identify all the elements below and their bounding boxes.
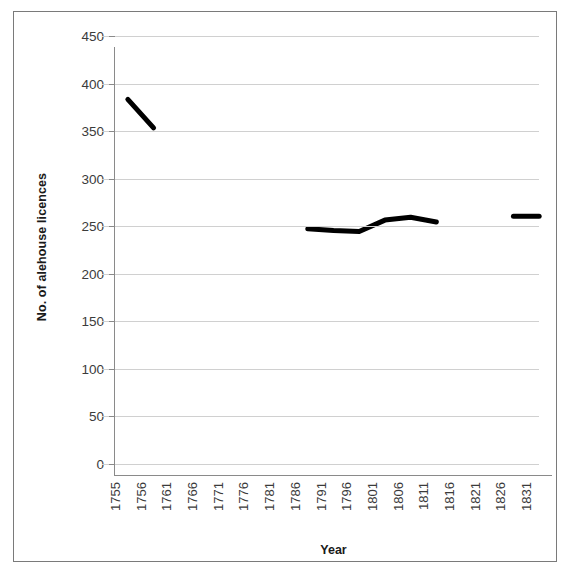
y-axis-tick-label: 400 — [81, 76, 104, 91]
gridline — [102, 321, 539, 322]
x-axis-tick-label: 1776 — [236, 482, 251, 511]
y-axis-tick — [109, 321, 115, 322]
y-axis-tick-label: 150 — [81, 314, 104, 329]
gridline — [102, 36, 539, 37]
x-axis-tick-label: 1821 — [468, 482, 483, 511]
gridline — [102, 131, 539, 132]
x-axis-tick-label: 1786 — [288, 482, 303, 511]
y-axis-tick-labels: 050100150200250300350400450 — [14, 12, 104, 579]
segment-1786-1811 — [308, 217, 437, 231]
chart-frame: No. of alehouse licences Year 0501001502… — [13, 11, 557, 562]
x-axis-title: Year — [115, 543, 552, 557]
gridline — [102, 464, 539, 465]
y-axis-tick — [109, 464, 115, 465]
gridline — [102, 274, 539, 275]
x-axis-tick-label: 1831 — [519, 482, 534, 511]
segment-1755-1756 — [128, 99, 154, 128]
x-axis-tick-label: 1781 — [262, 482, 277, 511]
x-axis-tick-label: 1811 — [416, 482, 431, 510]
gridline — [102, 416, 539, 417]
gridline — [102, 226, 539, 227]
y-axis-tick-label: 200 — [81, 266, 104, 281]
y-axis-tick-label: 300 — [81, 171, 104, 186]
y-axis-tick — [109, 274, 115, 275]
y-axis-tick-label: 250 — [81, 219, 104, 234]
gridline — [102, 84, 539, 85]
x-axis-tick-label: 1755 — [108, 482, 123, 511]
y-axis-tick — [109, 369, 115, 370]
x-axis-tick-label: 1826 — [493, 482, 508, 511]
x-axis-tick-label: 1796 — [339, 482, 354, 511]
y-axis-tick-label: 100 — [81, 361, 104, 376]
y-axis-tick — [109, 226, 115, 227]
x-axis-tick-label: 1791 — [314, 482, 329, 511]
y-axis-tick — [109, 36, 115, 37]
y-axis-tick — [109, 84, 115, 85]
x-axis-tick-label: 1771 — [211, 482, 226, 511]
x-axis-tick-label: 1806 — [391, 482, 406, 511]
data-series-lines — [115, 47, 552, 475]
y-axis-tick — [109, 179, 115, 180]
x-axis-line — [115, 475, 552, 476]
plot-area — [115, 47, 552, 475]
y-axis-tick-label: 450 — [81, 29, 104, 44]
gridline — [102, 179, 539, 180]
y-axis-tick — [109, 416, 115, 417]
gridline — [102, 369, 539, 370]
x-axis-tick-label: 1801 — [365, 482, 380, 511]
x-axis-tick-label: 1766 — [185, 482, 200, 511]
x-axis-tick-label: 1761 — [159, 482, 174, 511]
x-axis-tick-label: 1816 — [442, 482, 457, 511]
x-axis-tick-label: 1756 — [134, 482, 149, 511]
y-axis-tick — [109, 131, 115, 132]
y-axis-tick-label: 350 — [81, 124, 104, 139]
